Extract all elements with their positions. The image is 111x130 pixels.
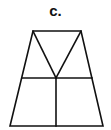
- v-left-line: [33, 31, 56, 78]
- v-right-line: [56, 31, 81, 78]
- trapezoid-diagram: [0, 0, 111, 130]
